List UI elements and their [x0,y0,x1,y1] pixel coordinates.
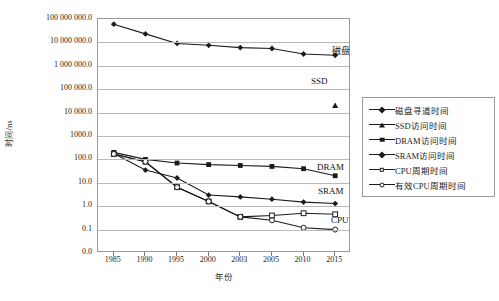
y-tick-label: 100 000 000.0 [46,14,92,22]
data-point [111,152,116,157]
gridline [98,136,349,137]
y-tick-label: 1.0 [82,201,92,209]
series-filled-diamond [111,21,338,58]
y-tick-label: 10 000 000.0 [50,37,92,45]
legend-marker-filled-diamond-icon [369,104,395,116]
dram-label: DRAM [317,162,344,172]
legend-label: CPU周期时间 [395,164,448,176]
data-point [270,164,275,169]
x-tick-mark [176,252,177,256]
legend-key-marker [380,182,385,187]
disk-label: 磁盘 [332,46,350,56]
x-tick-mark [113,252,114,256]
data-point [301,51,307,57]
cpu-label: CPU [331,215,349,225]
y-tick-label: 100.0 [74,154,92,162]
data-point [206,192,212,198]
x-tick-label: 2010 [295,255,311,264]
legend-item[interactable]: DRAM访问时间 [363,132,494,147]
y-tick-label: 10 000.0 [64,108,92,116]
data-point [174,175,180,181]
data-point [238,214,243,219]
y-tick-label: 100 000.0 [60,84,92,92]
series-open-circle [111,152,337,233]
y-tick-label: 1000.0 [70,131,92,139]
legend-item[interactable]: 磁盘寻道时间 [363,102,494,117]
legend-label: 有效CPU周期时间 [395,179,466,191]
x-tick-label: 1995 [168,255,184,264]
data-point [206,162,211,167]
data-point [332,102,338,108]
data-point [175,185,180,190]
data-point [301,166,306,171]
legend-key-marker [378,106,385,113]
data-point [270,213,275,218]
gridline [98,113,349,114]
data-point [269,46,275,52]
data-point [143,31,149,37]
x-tick-label: 1985 [105,255,121,264]
legend-label: SRAM访问时间 [395,149,455,161]
data-point [237,194,243,200]
x-tick-mark [144,252,145,256]
x-axis-title: 年份 [97,270,350,282]
chart-root: 时间/ns 100 000 000.010 000 000.01 000 000… [0,0,499,301]
x-tick-label: 2003 [231,255,247,264]
legend-label: DRAM访问时间 [395,134,457,146]
legend-item[interactable]: SSD访问时间 [363,117,494,132]
chart-legend: 磁盘寻道时间SSD访问时间DRAM访问时间SRAM访问时间CPU周期时间有效CP… [362,97,495,197]
data-point [333,173,338,178]
data-point [301,199,307,205]
gridline [98,89,349,90]
x-tick-mark [303,252,304,256]
sram-label: SRAM [318,186,344,196]
data-point [238,163,243,168]
legend-marker-open-circle-icon [369,179,395,191]
data-point [143,167,149,173]
y-tick-label: 10.0 [78,178,92,186]
data-point [237,45,243,51]
legend-marker-open-square-icon [369,164,395,176]
x-tick-mark [239,252,240,256]
ssd-label: SSD [311,76,328,86]
x-tick-mark [208,252,209,256]
legend-key-marker [379,122,385,127]
series-line [114,24,335,55]
x-tick-label: 2000 [200,255,216,264]
gridline [98,42,349,43]
gridline [98,206,349,207]
data-point [269,218,274,223]
data-point [111,21,117,27]
plot-area [97,18,350,252]
gridline [98,159,349,160]
y-tick-label: 1 000 000.0 [54,61,92,69]
x-tick-mark [271,252,272,256]
x-tick-label: 2005 [263,255,279,264]
x-tick-label: 1990 [136,255,152,264]
gridline [98,183,349,184]
data-point [301,211,306,216]
legend-key-marker [380,167,384,171]
x-tick-label: 2015 [326,255,342,264]
y-tick-label: 0.1 [82,225,92,233]
data-point [206,199,211,204]
series-filled-triangle [332,102,338,108]
legend-key-marker [380,137,385,142]
data-point [269,196,275,202]
legend-marker-filled-square-icon [369,134,395,146]
x-tick-mark [334,252,335,256]
legend-marker-filled-triangle-icon [369,119,395,131]
legend-item[interactable]: SRAM访问时间 [363,147,494,162]
data-point [175,161,180,166]
legend-label: SSD访问时间 [395,119,447,131]
legend-key-marker [378,151,385,158]
gridline [98,66,349,67]
x-axis-tick-labels: 19851990199520002003200520102015 [0,255,499,271]
legend-item[interactable]: CPU周期时间 [363,162,494,177]
legend-marker-filled-diamond-icon [369,149,395,161]
legend-item[interactable]: 有效CPU周期时间 [363,177,494,192]
legend-label: 磁盘寻道时间 [395,104,449,116]
gridline [98,230,349,231]
